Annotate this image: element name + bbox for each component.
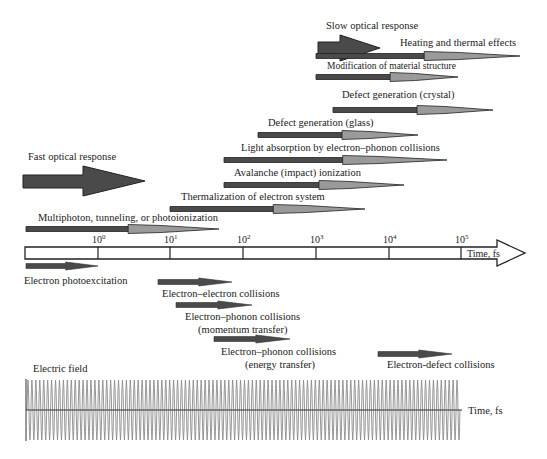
- processes-above-axis: Heating and thermal effectsModification …: [26, 37, 520, 234]
- axis-tick-label: 105: [455, 233, 469, 245]
- process-arrow: [26, 225, 219, 234]
- process-arrow: [316, 73, 458, 82]
- process-arrow: [333, 106, 493, 115]
- process-label: (energy transfer): [245, 359, 316, 371]
- process-arrow: [158, 278, 232, 286]
- process-arrow: [176, 301, 252, 309]
- time-axis: 100101102103104105 Time, fs: [25, 233, 525, 266]
- process-arrow: [26, 262, 98, 270]
- process-label: (momentum transfer): [198, 324, 288, 336]
- time-axis-label: Time, fs: [467, 248, 500, 259]
- process-arrow: [214, 335, 290, 343]
- axis-tick-label: 103: [310, 233, 324, 245]
- process-label: Electron-defect collisions: [387, 359, 495, 370]
- timescale-diagram: Slow optical response Fast optical respo…: [0, 0, 547, 459]
- process-label: Defect generation (glass): [268, 117, 374, 129]
- process-label: Avalanche (impact) ionization: [234, 167, 362, 179]
- process-label: Modification of material structure: [327, 61, 456, 71]
- process-arrow: [258, 131, 418, 140]
- axis-tick-label: 101: [164, 233, 178, 245]
- process-label: Thermalization of electron system: [181, 191, 325, 202]
- process-label: Electron–phonon collisions: [185, 311, 300, 322]
- process-label: Light absorption by electron–phonon coll…: [241, 142, 440, 153]
- process-arrow: [378, 350, 452, 358]
- process-label: Defect generation (crystal): [342, 89, 455, 101]
- process-arrow: [224, 156, 447, 165]
- axis-tick-label: 104: [383, 233, 397, 245]
- processes-below-axis: Electron photoexcitationElectron–electro…: [24, 262, 495, 371]
- field-time-axis-label: Time, fs: [468, 405, 503, 416]
- process-label: Electron–electron collisions: [162, 288, 280, 299]
- fast-optical-response-label: Fast optical response: [28, 151, 116, 162]
- process-label: Multiphoton, tunneling, or photoionizati…: [38, 212, 219, 223]
- slow-optical-response-label: Slow optical response: [326, 20, 418, 31]
- process-arrow: [224, 181, 404, 190]
- axis-tick-label: 102: [237, 233, 251, 245]
- process-label: Heating and thermal effects: [400, 37, 516, 48]
- axis-tick-label: 100: [92, 233, 106, 245]
- process-label: Electron photoexcitation: [24, 275, 128, 286]
- fast-optical-response-arrow: [23, 166, 145, 196]
- electric-field-label: Electric field: [33, 363, 88, 374]
- process-label: Electron–phonon collisions: [221, 346, 336, 357]
